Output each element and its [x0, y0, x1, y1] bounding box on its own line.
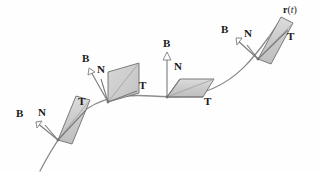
curve-label-close-paren: )	[294, 4, 297, 15]
frame-2-binormal-arrowhead	[88, 68, 95, 75]
frame-2-normal-label: N	[97, 64, 105, 75]
frame-4-origin-point	[257, 58, 260, 61]
frame-1-tangent-label: T	[78, 96, 85, 107]
frame-3-binormal-label: B	[163, 38, 170, 49]
frame-4-tangent-label: T	[287, 31, 294, 42]
frame-4-group	[236, 17, 293, 64]
frame-1-binormal-label: B	[16, 108, 23, 119]
frame-2-binormal-label: B	[82, 53, 89, 64]
frame-3-tangent-label: T	[204, 96, 211, 107]
frame-2-tangent-label: T	[139, 80, 146, 91]
frame-3-origin-point	[166, 96, 169, 99]
frame-4-normal-label: N	[244, 28, 252, 39]
tnb-frame-diagram: B N T B N T B N T B N T r(t)	[0, 0, 319, 172]
frame-2-group	[88, 63, 139, 103]
frame-3-group	[163, 52, 214, 98]
frame-1-origin-point	[57, 139, 60, 142]
diagram-canvas	[0, 0, 319, 172]
frame-3-binormal-arrowhead	[163, 52, 171, 60]
frame-1-binormal-arrowhead	[36, 121, 42, 128]
frame-4-binormal-arrow	[237, 40, 258, 59]
frame-4-binormal-label: B	[221, 24, 228, 35]
frame-3-normal-label: N	[174, 61, 182, 72]
frame-2-origin-point	[107, 101, 110, 104]
frame-1-normal-label: N	[38, 107, 46, 118]
curve-function-label: r(t)	[283, 5, 297, 15]
